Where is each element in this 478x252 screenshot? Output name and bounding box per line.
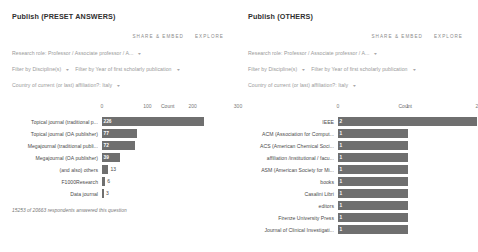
filter-first-publication-year[interactable]: Filter by Year of first scholarly public…: [311, 66, 414, 72]
chevron-down-icon: ▾: [374, 52, 377, 56]
bar-category-label: Megajournal (traditional publi...: [12, 143, 102, 149]
filter-label: Filter by Year of first scholarly public…: [75, 66, 171, 72]
filter-label: Country of current (or last) affiliation…: [12, 82, 112, 88]
filter-row: Country of current (or last) affiliation…: [12, 77, 230, 93]
x-axis-tick: 0: [337, 103, 340, 109]
bar-row: (and also) others13: [12, 164, 230, 175]
bar[interactable]: 77: [102, 129, 137, 138]
bar[interactable]: [102, 177, 105, 186]
bar-row: books1: [248, 176, 469, 187]
filter-label: Country of current (or last) affiliation…: [248, 82, 348, 88]
panel-actions: SHARE & EMBED EXPLORE: [12, 34, 230, 39]
bar-category-label: IEEE: [248, 119, 338, 125]
bar[interactable]: 1: [338, 201, 408, 210]
bar[interactable]: 1: [338, 141, 408, 150]
filter-row: Research role: Professor / Associate pro…: [12, 45, 230, 61]
bar-value-label: 77: [102, 131, 109, 136]
bar-track: 72: [102, 141, 230, 150]
bar-category-label: (and also) others: [12, 167, 102, 173]
explore-link[interactable]: EXPLORE: [434, 34, 463, 39]
bar-row: IEEE2: [248, 116, 469, 127]
chevron-down-icon: ▾: [138, 52, 141, 56]
share-and-embed-link[interactable]: SHARE & EMBED: [133, 34, 184, 39]
bar-value-label: 1: [338, 167, 342, 172]
bar-category-label: Megajournal (OA publisher): [12, 155, 102, 161]
bar[interactable]: 2: [338, 117, 477, 126]
x-axis-ticks: 0100200300: [102, 103, 230, 116]
bar-category-label: Data journal: [12, 191, 102, 197]
bar-track: 1: [338, 141, 469, 150]
bar-value-label: 1: [338, 143, 342, 148]
bar-value-label: 13: [110, 166, 116, 172]
bar-track: 13: [102, 165, 230, 174]
bar-row: Journal of Clinical Investigati...1: [248, 224, 469, 235]
panel-preset-answers: Publish (PRESET ANSWERS) SHARE & EMBED E…: [0, 0, 236, 252]
bar[interactable]: 72: [102, 141, 135, 150]
bar-value-label: 226: [102, 119, 112, 124]
bar[interactable]: 1: [338, 129, 408, 138]
bar-track: 1: [338, 129, 469, 138]
filter-row: Filter by Discipline(s) ▾ Filter by Year…: [248, 61, 469, 77]
bar-category-label: F1000Research: [12, 179, 102, 185]
bar[interactable]: [102, 189, 104, 198]
bar-value-label: 3: [106, 190, 109, 196]
bar[interactable]: 1: [338, 177, 408, 186]
bar-row: editors1: [248, 200, 469, 211]
bar-track: 1: [338, 177, 469, 186]
bar-value-label: 2: [338, 119, 342, 124]
bar-track: 39: [102, 153, 230, 162]
filter-research-role[interactable]: Research role: Professor / Associate pro…: [12, 50, 140, 56]
bar-category-label: ACM (Association for Comput...: [248, 131, 338, 137]
bar[interactable]: [102, 165, 108, 174]
x-axis-ticks: 012: [338, 103, 469, 116]
bar-value-label: 1: [338, 131, 342, 136]
bar-category-label: ACS (American Chemical Soci...: [248, 143, 338, 149]
explore-link[interactable]: EXPLORE: [195, 34, 224, 39]
chevron-down-icon: ▾: [176, 68, 179, 72]
bar-row: affiliation /institutional / facu...1: [248, 152, 469, 163]
filter-first-publication-year[interactable]: Filter by Year of first scholarly public…: [75, 66, 178, 72]
page-title: Publish (OTHERS): [248, 12, 469, 21]
bar-value-label: 6: [107, 178, 110, 184]
bar-category-label: Topical journal (OA publisher): [12, 131, 102, 137]
x-axis-tick: 1: [406, 103, 409, 109]
bar[interactable]: 1: [338, 153, 408, 162]
bar-category-label: Firenze University Press: [248, 215, 338, 221]
filter-disciplines[interactable]: Filter by Discipline(s) ▾: [248, 66, 304, 72]
filter-row: Filter by Discipline(s) ▾ Filter by Year…: [12, 61, 230, 77]
filter-country-affiliation[interactable]: Country of current (or last) affiliation…: [248, 82, 355, 88]
bar-category-label: books: [248, 179, 338, 185]
bar-row: Data journal3: [12, 188, 230, 199]
bar-track: 226: [102, 117, 230, 126]
bar-track: 1: [338, 213, 469, 222]
bar[interactable]: 1: [338, 165, 408, 174]
bar-track: 1: [338, 225, 469, 234]
filter-disciplines[interactable]: Filter by Discipline(s) ▾: [12, 66, 68, 72]
bar[interactable]: 1: [338, 225, 408, 234]
bar-track: 1: [338, 153, 469, 162]
bar-track: 1: [338, 165, 469, 174]
x-axis-tick: 200: [188, 103, 196, 109]
chevron-down-icon: ▾: [353, 84, 356, 88]
bar[interactable]: 39: [102, 153, 120, 162]
respondents-footnote: 15253 of 20663 respondents answered this…: [12, 208, 230, 213]
panel-actions: SHARE & EMBED EXPLORE: [248, 34, 469, 39]
bar[interactable]: 1: [338, 213, 408, 222]
bar-row: Topical journal (traditional p...226: [12, 116, 230, 127]
bar[interactable]: 226: [102, 117, 204, 126]
chevron-down-icon: ▾: [302, 68, 305, 72]
chevron-down-icon: ▾: [412, 68, 415, 72]
bar-rows: Topical journal (traditional p...226Topi…: [12, 116, 230, 199]
filter-label: Research role: Professor / Associate pro…: [248, 50, 369, 56]
bar-chart-preset-answers: Count 0100200300 Topical journal (tradit…: [12, 103, 230, 199]
chevron-down-icon: ▾: [66, 68, 69, 72]
share-and-embed-link[interactable]: SHARE & EMBED: [372, 34, 423, 39]
bar-row: F1000Research6: [12, 176, 230, 187]
filter-country-affiliation[interactable]: Country of current (or last) affiliation…: [12, 82, 119, 88]
bar[interactable]: 1: [338, 189, 408, 198]
filter-research-role[interactable]: Research role: Professor / Associate pro…: [248, 50, 376, 56]
bar-category-label: Casalini Libri: [248, 191, 338, 197]
bar-row: ACM (Association for Comput...1: [248, 128, 469, 139]
bar-track: 1: [338, 201, 469, 210]
